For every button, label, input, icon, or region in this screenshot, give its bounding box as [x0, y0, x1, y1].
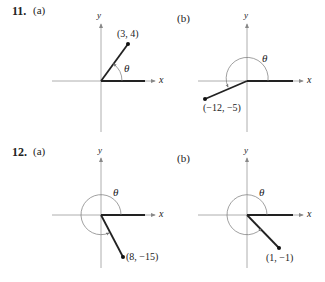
- terminal-side: [101, 215, 123, 257]
- part-label: (a): [33, 4, 45, 16]
- angle-label: θ: [259, 186, 264, 198]
- point-marker: [277, 246, 281, 250]
- point-label: (1, −1): [266, 252, 293, 263]
- part-label: (b): [177, 152, 190, 164]
- problem-number: 12.: [12, 145, 27, 160]
- angle-label: θ: [262, 52, 267, 64]
- terminal-side: [205, 81, 247, 99]
- terminal-side: [247, 215, 279, 248]
- part-label: (a): [33, 145, 45, 157]
- part-label: (b): [177, 12, 190, 24]
- y-axis-label: y: [97, 10, 101, 20]
- y-axis-label: y: [244, 145, 248, 155]
- point-marker: [126, 42, 130, 46]
- angle-arc: [114, 64, 123, 81]
- angle-label: θ: [124, 62, 129, 74]
- point-label: (−12, −5): [203, 102, 241, 113]
- point-marker: [203, 97, 207, 101]
- point-label: (3, 4): [117, 28, 139, 39]
- diagram-canvas: [0, 0, 325, 282]
- figure-11b: [198, 24, 303, 132]
- point-label: (8, −15): [126, 251, 158, 262]
- point-marker: [121, 255, 125, 259]
- angle-label: θ: [113, 186, 118, 198]
- problem-number: 11.: [12, 4, 26, 19]
- y-axis-label: y: [98, 145, 102, 155]
- x-axis-label: x: [307, 208, 311, 219]
- x-axis-label: x: [307, 74, 311, 85]
- x-axis-label: x: [159, 74, 163, 85]
- y-axis-label: y: [244, 10, 248, 20]
- x-axis-label: x: [159, 208, 163, 219]
- figure-11a: [52, 24, 155, 132]
